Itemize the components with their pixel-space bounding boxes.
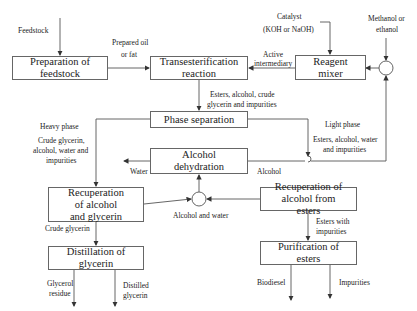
label-distilled: Distilled [123, 281, 149, 290]
label-crude-glyc-1: Crude glycerin, [38, 136, 85, 145]
label-heavy-phase: Heavy phase [40, 122, 79, 131]
label-light-1: Esters, alcohol, water [313, 135, 378, 144]
label-intermediary: intermediary [254, 59, 292, 68]
box-phase-separation: Phase separation [150, 111, 248, 128]
label-glycerin: glycerin [123, 291, 148, 300]
box-recuperation-alcohol-esters: Recuperation of alcohol from esters [260, 187, 357, 211]
box-transesterification: Transesterification reaction [150, 56, 248, 80]
label-feedstock: Feedstock [18, 26, 48, 35]
label-water: Water [130, 167, 148, 176]
label-impurities-out: Impurities [339, 278, 370, 287]
label-active: Active [263, 50, 283, 59]
mixer-junction-mid [192, 192, 206, 206]
label-crude-glycerin: Crude glycerin [45, 224, 90, 233]
label-glycerol: Glycerol [47, 279, 73, 288]
label-biodiesel: Biodiesel [257, 278, 285, 287]
label-light-phase: Light phase [325, 120, 360, 129]
box-alcohol-dehydration: Alcohol dehydration [150, 148, 248, 174]
label-methanol: Methanol or [368, 14, 405, 23]
label-esters-alcohol-1: Esters, alcohol, crude [210, 90, 275, 99]
mixer-junction-top [379, 61, 393, 75]
label-ethanol: ethanol [376, 25, 398, 34]
label-alcohol-and-water: Alcohol and water [173, 211, 228, 220]
label-crude-glyc-3: impurities [46, 156, 76, 165]
label-catalyst: Catalyst [277, 12, 302, 21]
label-residue: residue [49, 289, 71, 298]
box-recuperation-alcohol-glycerin: Recuperation of alcohol and glycerin [48, 187, 144, 222]
box-purification-of-esters: Purification of esters [260, 241, 357, 265]
label-crude-glyc-2: alcohol, water and [33, 146, 88, 155]
label-koh-naoh: (KOH or NaOH) [263, 25, 314, 34]
box-preparation-of-feedstock: Preparation of feedstock [12, 56, 108, 80]
box-distillation-of-glycerin: Distillation of glycerin [48, 246, 144, 270]
label-light-2: and impurities [323, 145, 366, 154]
label-esters-with: Esters with [316, 217, 350, 226]
label-or-fat: or fat [121, 50, 137, 59]
label-impurities-1: impurities [316, 227, 346, 236]
label-alcohol: Alcohol [257, 167, 281, 176]
box-reagent-mixer: Reagent mixer [295, 55, 366, 80]
label-esters-alcohol-2: glycerin and impurities [207, 100, 277, 109]
label-prepared-oil: Prepared oil [112, 38, 148, 47]
